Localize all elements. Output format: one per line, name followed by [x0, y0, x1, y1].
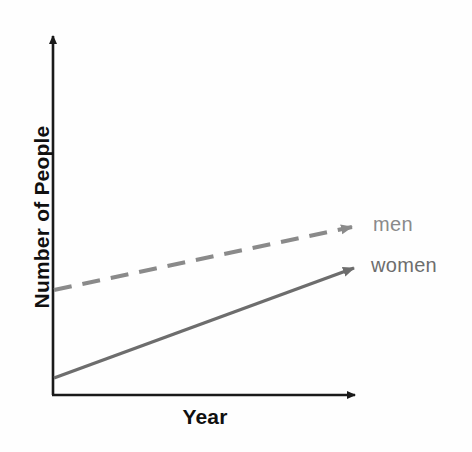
- series-line-men: [54, 227, 352, 290]
- x-axis-title: Year: [145, 405, 265, 429]
- series-label-women: women: [371, 254, 437, 277]
- line-chart-figure: Number of People Year men women: [0, 0, 472, 452]
- y-axis-title: Number of People: [30, 117, 54, 317]
- series-label-men: men: [373, 213, 413, 236]
- series-line-women: [54, 268, 354, 378]
